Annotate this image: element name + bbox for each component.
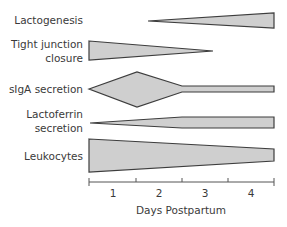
tick-label-1: 1 <box>110 187 117 199</box>
x-axis <box>89 178 274 186</box>
lactoferrin-wedge <box>90 117 274 128</box>
lactogenesis-wedge <box>148 13 274 28</box>
label-lactoferrin-line1: Lactoferrin <box>26 108 83 120</box>
tight-junction-wedge <box>89 41 213 60</box>
tick-label-2: 2 <box>156 187 163 199</box>
label-tight-junction-line1: Tight junction <box>10 38 83 50</box>
postpartum-timeline-diagram: Lactogenesis Tight junction closure sIgA… <box>0 0 287 227</box>
tick-label-4: 4 <box>248 187 255 199</box>
label-lactoferrin-line2: secretion <box>35 122 83 134</box>
label-leukocytes: Leukocytes <box>24 150 83 162</box>
label-siga-secretion: sIgA secretion <box>9 83 83 95</box>
label-lactogenesis: Lactogenesis <box>14 14 83 26</box>
tick-label-3: 3 <box>202 187 209 199</box>
siga-diamond-bar <box>89 72 274 107</box>
label-tight-junction-line2: closure <box>45 52 83 64</box>
leukocytes-taper <box>89 139 274 172</box>
x-axis-title: Days Postpartum <box>136 204 226 216</box>
